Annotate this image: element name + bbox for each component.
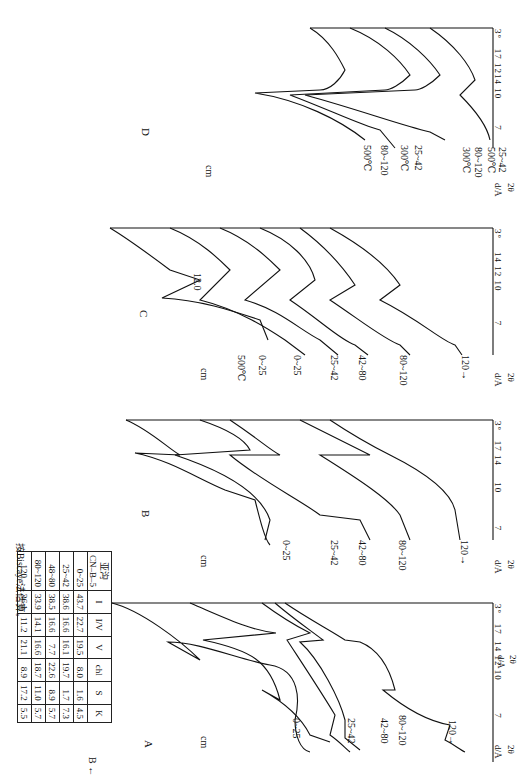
table-header-s: S: [88, 682, 112, 705]
panel-d-label-25-42b: 25~42: [497, 147, 508, 172]
panel-d-label-300a: 300℃: [399, 145, 410, 171]
panel-label-d: D: [140, 128, 152, 136]
panel-a-label-120: 120→: [447, 720, 458, 745]
panel-a-axis-theta-label: 2θ: [508, 655, 518, 664]
table-note: 按Biscaye法估算。: [14, 543, 28, 623]
panel-d-label-25-42a: 25~42: [413, 145, 424, 170]
panel-a-label-80-120: 80~120: [397, 715, 408, 745]
table-header-iv: I/V: [88, 613, 112, 636]
panel-b-label-120: 120→: [459, 540, 470, 565]
table-row: 0~25 43.7 22.7 19.5 8.0 1.6 4.5: [74, 552, 88, 723]
table-row: 25~42 38.6 16.6 16.1 19.7 1.7 7.3: [60, 552, 74, 723]
table-row: 80~120 33.9 14.1 16.6 18.7 11.0 5.7: [32, 552, 46, 723]
panel-d-label-500b: 500℃: [486, 147, 497, 173]
panel-c-curve-120: [330, 228, 462, 355]
table-header-i: I: [88, 591, 112, 614]
panel-c-label-80-120: 80~120: [398, 355, 409, 385]
panel-c-label-0-25: 0~25: [292, 355, 303, 375]
panel-b-label-0-25: 0~25: [281, 540, 292, 560]
panel-c-annotation: 12.0: [192, 273, 203, 291]
panel-d-label-500a: 500℃: [362, 145, 373, 171]
panel-b-curve-80-120: [300, 420, 410, 540]
panel-c-curve-80-120: [300, 228, 410, 355]
panel-c-label-120: 120→: [460, 355, 471, 380]
panel-d-label-80-120a: 80~120: [379, 145, 390, 175]
axis-b-d-label: d/Å: [493, 560, 503, 574]
axis-c-d-label: d/Å: [493, 373, 503, 387]
panel-a-unit: cm: [199, 736, 210, 748]
panel-label-a: A: [143, 740, 155, 748]
panel-a-label-25-42: 25~42: [346, 718, 357, 743]
panel-d-unit: cm: [204, 165, 215, 177]
axis-c-theta-label: 2θ: [506, 373, 516, 382]
axis-a-d-ticks: 3° 17 14 12 10 7: [493, 604, 503, 719]
panel-b-curve-120: [330, 420, 460, 540]
panel-b-curve-42-80: [230, 420, 370, 540]
axis-b-d-ticks: 3° 17 14 10 7: [493, 421, 503, 531]
panel-d-label-300b: 300℃: [461, 147, 472, 173]
axis-d-d-ticks: 3° 17 1214 10 7: [493, 29, 503, 131]
panel-b-label-42-80: 42~80: [357, 540, 368, 565]
axis-b-theta-label: 2θ: [506, 560, 516, 569]
panel-d-curve-500-80-120: [255, 28, 365, 140]
axis-d-d-label: d/Å: [493, 183, 503, 197]
panel-label-c: C: [138, 310, 150, 317]
panel-d-label-80-120b: 80~120: [473, 147, 484, 177]
panel-d-curve-500-25-42: [430, 28, 490, 140]
panel-c-curve-500-0-25: [110, 228, 268, 340]
panel-c-label-25-42: 25~42: [329, 355, 340, 380]
table-header-site: 亚沟CN–B–5: [88, 552, 112, 591]
axis-a-d-label: d/Å: [493, 745, 503, 759]
axis-d-theta-label: 2θ: [506, 183, 516, 192]
panel-d-curve-300-25-42: [290, 28, 410, 148]
panel-d-curve-300-80-120: [305, 28, 445, 140]
panel-a-label-0-25: 0~25: [291, 718, 302, 738]
panel-c-label-42-80: 42~80: [357, 355, 368, 380]
clay-mineral-table: 亚沟CN–B–5 I I/V V chl S K 0~25 43.7 22.7 …: [17, 551, 112, 723]
panel-b-unit: cm: [199, 555, 210, 567]
table-arrow-label: B ←: [87, 757, 98, 776]
panel-c-unit: cm: [199, 368, 210, 380]
panel-c-curve-0-25: [170, 228, 305, 355]
panel-a-curve-0-25: [112, 603, 310, 752]
panel-b-label-80-120: 80~120: [397, 540, 408, 570]
panel-a-curve-25-42: [190, 603, 330, 742]
axis-a-theta-label: 2θ: [506, 745, 516, 754]
panel-b-label-25-42: 25~42: [329, 540, 340, 565]
table-row: 48~80 38.5 16.6 7.7 22.6 8.9 5.7: [46, 552, 60, 723]
panel-a-label-42-80: 42~80: [379, 718, 390, 743]
panel-c-label-0-25a: 0~25: [257, 355, 268, 375]
table-header-k: K: [88, 704, 112, 722]
panel-c-label-500: 500℃: [236, 355, 247, 381]
table-header-v: V: [88, 636, 112, 659]
table-header-chl: chl: [88, 659, 112, 682]
panel-a-curve-42-80: [262, 603, 350, 752]
panel-c-curve-42-80: [260, 228, 368, 355]
panel-b-curve-0-25: [126, 420, 270, 545]
axis-c-d-ticks: 3° 14 12 10 7: [493, 229, 503, 326]
panel-label-b: B: [140, 510, 152, 517]
